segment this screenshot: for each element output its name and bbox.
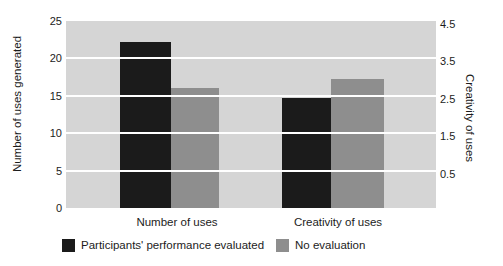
right-axis-title: Creativity of uses	[463, 74, 476, 162]
legend-label-evaluated: Participants' performance evaluated	[81, 239, 264, 252]
category-label-creativity-of-uses: Creativity of uses	[258, 215, 418, 229]
legend-label-no-evaluation: No evaluation	[295, 239, 365, 252]
legend-swatch-evaluated	[62, 239, 75, 252]
bar-evaluated-number-of-uses	[120, 42, 171, 208]
gridline	[66, 95, 436, 97]
bar-no-evaluation-number-of-uses	[171, 88, 219, 208]
left-axis-tick-label: 25	[28, 14, 62, 28]
gridline	[66, 170, 436, 172]
right-axis-tick-label: 1.5	[440, 129, 474, 143]
category-label-number-of-uses: Number of uses	[97, 215, 257, 229]
bar-no-evaluation-creativity-of-uses	[331, 79, 384, 208]
legend-swatch-no-evaluation	[276, 239, 289, 252]
right-axis-tick-label: 3.5	[440, 54, 474, 68]
left-axis-title: Number of uses generated	[11, 36, 24, 172]
left-axis-tick-label: 15	[28, 89, 62, 103]
left-axis-tick-label: 0	[28, 201, 62, 215]
gridline	[66, 57, 436, 59]
plot-area	[66, 21, 436, 208]
bar-evaluated-creativity-of-uses	[282, 98, 331, 208]
right-axis-tick-label: 0.5	[440, 167, 474, 181]
right-axis-tick-label: 2.5	[440, 92, 474, 106]
right-axis-tick-label: 4.5	[440, 17, 474, 31]
left-axis-tick-label: 10	[28, 126, 62, 140]
bar-chart-figure: Number of uses generated Creativity of u…	[0, 0, 503, 266]
left-axis-tick-label: 5	[28, 164, 62, 178]
gridline	[66, 132, 436, 134]
left-axis-tick-label: 20	[28, 51, 62, 65]
